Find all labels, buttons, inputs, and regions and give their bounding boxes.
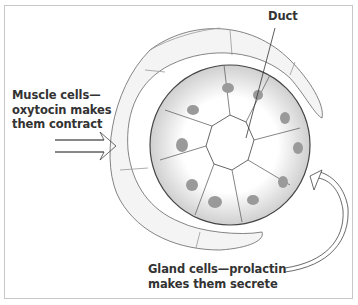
gland-label-line-2: makes them secrete — [148, 277, 286, 292]
muscle-label-line-3: them contract — [12, 117, 112, 132]
double-right-arrow-icon — [55, 132, 116, 160]
muscle-label-line-1: Muscle cells— — [12, 88, 112, 103]
alveolus-illustration — [0, 0, 358, 305]
gland-label-line-1: Gland cells—prolactin — [148, 262, 286, 277]
gland-cells-label: Gland cells—prolactin makes them secrete — [148, 262, 286, 291]
gland-cell-ring — [150, 65, 310, 225]
muscle-label-line-2: oxytocin makes — [12, 103, 112, 118]
duct-label: Duct — [268, 9, 298, 24]
muscle-cells-label: Muscle cells— oxytocin makes them contra… — [12, 88, 112, 132]
